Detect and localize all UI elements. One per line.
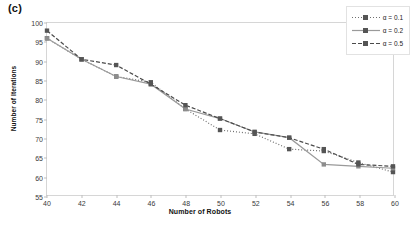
x-tick-label: 52 [252,200,260,207]
data-point-marker [218,116,222,120]
x-tick-mark [360,195,361,198]
x-axis-title: Number of Robots [0,208,400,215]
x-tick-label: 46 [147,200,155,207]
y-tick-label: 55 [35,194,43,201]
y-tick-label: 60 [35,174,43,181]
legend-key-icon [351,12,381,23]
y-tick-label: 80 [35,97,43,104]
x-tick-mark [151,195,152,198]
data-point-marker [79,57,83,61]
y-tick-label: 70 [35,136,43,143]
legend-item: α = 0.2 [351,24,403,37]
x-tick-label: 54 [287,200,295,207]
legend-item: α = 0.5 [351,37,403,50]
legend-label: α = 0.1 [383,14,403,21]
x-tick-label: 44 [113,200,121,207]
legend-key-icon [351,25,381,36]
data-point-marker [356,162,360,166]
y-tick-label: 90 [35,58,43,65]
x-tick-label: 58 [356,200,364,207]
plot-area: 556065707580859095100 404244464850525456… [46,22,394,196]
x-tick-label: 40 [43,200,51,207]
series-lines [47,23,393,195]
data-point-marker [183,103,187,107]
series-line [47,38,393,172]
y-axis-title: Number of Iterations [10,39,17,159]
x-tick-mark [116,195,117,198]
x-tick-label: 50 [217,200,225,207]
x-tick-label: 48 [182,200,190,207]
y-tick-label: 85 [35,78,43,85]
data-point-marker [391,164,395,168]
y-tick-label: 100 [31,20,43,27]
x-tick-label: 60 [391,200,399,207]
x-tick-mark [221,195,222,198]
y-tick-label: 65 [35,155,43,162]
data-point-marker [391,170,395,174]
legend-key-icon [351,38,381,49]
data-point-marker [149,82,153,86]
data-point-marker [114,74,118,78]
x-tick-mark [395,195,396,198]
series-line [47,31,393,167]
data-point-marker [322,147,326,151]
panel-label: (c) [8,2,22,14]
data-point-marker [114,63,118,67]
figure-panel-c: (c) Number of Iterations Number of Robot… [0,0,416,226]
series-line [47,38,393,168]
data-point-marker [45,28,49,32]
legend-item: α = 0.1 [351,11,403,24]
x-tick-mark [47,195,48,198]
legend: α = 0.1α = 0.2α = 0.5 [346,6,410,55]
data-point-marker [287,147,291,151]
x-tick-label: 42 [78,200,86,207]
x-tick-mark [186,195,187,198]
x-tick-mark [81,195,82,198]
data-point-marker [287,135,291,139]
y-tick-label: 95 [35,39,43,46]
data-point-marker [183,107,187,111]
x-tick-mark [290,195,291,198]
x-tick-mark [255,195,256,198]
data-point-marker [45,36,49,40]
data-point-marker [252,130,256,134]
y-tick-label: 75 [35,116,43,123]
x-tick-mark [325,195,326,198]
legend-label: α = 0.5 [383,40,403,47]
legend-label: α = 0.2 [383,27,403,34]
data-point-marker [322,162,326,166]
data-point-marker [218,128,222,132]
x-tick-label: 56 [321,200,329,207]
